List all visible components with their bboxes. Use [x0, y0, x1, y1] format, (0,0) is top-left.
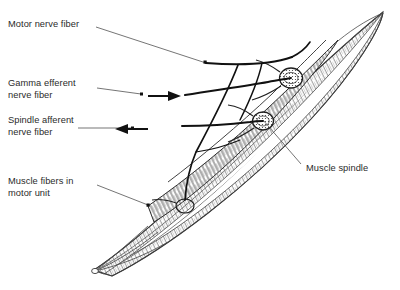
diagram-canvas: Motor nerve fiber Gamma efferent nerve f…	[0, 0, 400, 290]
label-spindle-afferent-line-2: nerve fiber	[8, 127, 52, 138]
dot-muscle-fibers	[147, 204, 150, 207]
leader-gamma-efferent	[97, 88, 141, 94]
leader-muscle-fibers	[97, 185, 148, 205]
spindle-afferent-arrow	[115, 124, 148, 134]
dot-gamma-efferent	[140, 93, 143, 96]
label-gamma-efferent-line-1: Gamma efferent	[8, 78, 76, 89]
muscle-diagram-artwork	[0, 0, 400, 290]
label-motor-nerve-fiber: Motor nerve fiber	[8, 19, 79, 30]
motor-unit-fibers	[148, 40, 338, 222]
label-muscle-fibers-line-2: motor unit	[8, 188, 50, 199]
label-gamma-efferent-line-2: nerve fiber	[8, 90, 52, 101]
leader-motor-nerve-fiber	[96, 27, 206, 63]
label-muscle-fibers-line-1: Muscle fibers in	[8, 176, 73, 187]
gamma-efferent-arrow	[148, 91, 181, 101]
label-muscle-spindle: Muscle spindle	[306, 163, 368, 174]
dot-motor-nerve	[204, 61, 207, 64]
label-spindle-afferent-line-1: Spindle afferent	[8, 115, 74, 126]
